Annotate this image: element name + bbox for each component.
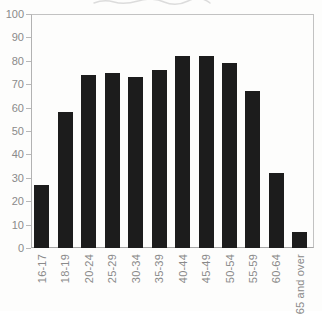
y-axis-tick — [26, 131, 31, 132]
y-axis-tick — [26, 108, 31, 109]
bar-60-64 — [269, 173, 284, 248]
y-tick-label: 50 — [1, 125, 24, 138]
x-tick-label: 30-34 — [129, 254, 143, 283]
y-tick-label: 10 — [1, 219, 24, 232]
y-axis-tick — [26, 37, 31, 38]
x-tick-label: 20-24 — [82, 254, 96, 283]
bar-35-39 — [152, 70, 167, 248]
x-tick-label: 40-44 — [176, 254, 190, 283]
y-axis-tick — [26, 14, 31, 15]
bar-18-19 — [58, 112, 73, 248]
x-tick-label: 18-19 — [58, 254, 72, 283]
bar-30-34 — [128, 77, 143, 248]
y-tick-label: 100 — [1, 8, 24, 21]
x-tick-label: 65 and over — [293, 254, 307, 314]
x-tick-label: 60-64 — [269, 254, 283, 283]
x-tick-label: 50-54 — [223, 254, 237, 283]
y-tick-label: 80 — [1, 55, 24, 68]
y-tick-label: 90 — [1, 31, 24, 44]
y-tick-label: 70 — [1, 78, 24, 91]
bar-16-17 — [34, 185, 49, 248]
y-tick-label: 20 — [1, 195, 24, 208]
y-axis-tick — [26, 84, 31, 85]
bar-45-49 — [199, 56, 214, 248]
y-axis-tick — [26, 225, 31, 226]
y-tick-label: 60 — [1, 102, 24, 115]
x-tick-label: 35-39 — [152, 254, 166, 283]
y-axis-tick — [26, 178, 31, 179]
bar-55-59 — [245, 91, 260, 248]
x-tick-label: 45-49 — [199, 254, 213, 283]
bar-65 and over — [292, 232, 307, 248]
cropped-text-artifact — [92, 0, 212, 5]
y-tick-label: 30 — [1, 172, 24, 185]
bar-20-24 — [81, 75, 96, 248]
y-tick-label: 0 — [1, 242, 24, 255]
y-axis-tick — [26, 201, 31, 202]
y-axis-tick — [26, 61, 31, 62]
bar-50-54 — [222, 63, 237, 248]
x-tick-label: 55-59 — [246, 254, 260, 283]
y-tick-label: 40 — [1, 148, 24, 161]
bar-40-44 — [175, 56, 190, 248]
x-tick-label: 16-17 — [35, 254, 49, 283]
x-tick-label: 25-29 — [105, 254, 119, 283]
bar-25-29 — [105, 73, 120, 249]
y-axis-tick — [26, 248, 31, 249]
y-axis-tick — [26, 154, 31, 155]
